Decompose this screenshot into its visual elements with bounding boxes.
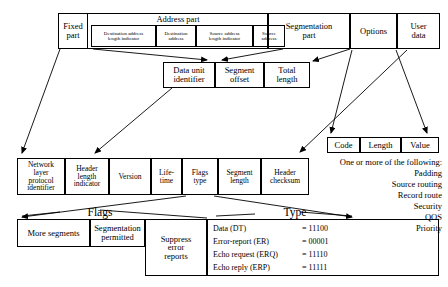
options-note-item-record-route: Record route bbox=[398, 190, 442, 200]
box-option-code: Code bbox=[327, 137, 360, 153]
box-option-value-label: Value bbox=[409, 141, 430, 150]
box-version-label: Version bbox=[118, 173, 143, 181]
type-label: Type bbox=[255, 206, 335, 218]
box-header-checksum-label: Header checksum bbox=[269, 169, 301, 184]
box-flags-type-label: Flags type bbox=[191, 169, 209, 184]
box-suppress-error-reports: Suppress error reports bbox=[145, 219, 207, 276]
type-row-echo-reply-erp-name: Echo reply (ERP) bbox=[213, 263, 270, 272]
box-segment-length: Segment length bbox=[218, 158, 261, 195]
options-note-item-source-routing: Source routing bbox=[392, 179, 442, 189]
box-lifetime-label: Life- time bbox=[158, 169, 175, 184]
type-row-data-dt-name: Data (DT) bbox=[213, 224, 246, 233]
type-row-echo-request-erq-name: Echo request (ERQ) bbox=[213, 250, 278, 259]
box-more-segments: More segments bbox=[17, 219, 90, 247]
box-flags-type: Flags type bbox=[182, 158, 218, 195]
options-note-heading: One or more of the following: bbox=[340, 157, 442, 167]
box-destination-address: Destination address bbox=[156, 25, 196, 47]
type-row-error-report-er-name: Error-report (ER) bbox=[213, 237, 269, 246]
box-destination-address-label: Destination address bbox=[163, 31, 188, 41]
flags-label: Flags bbox=[60, 206, 140, 218]
box-user-data-label: User data bbox=[409, 22, 427, 39]
box-segment-offset: Segment offset bbox=[215, 62, 264, 88]
box-segmentation-part-label: Segmentation part bbox=[285, 22, 334, 39]
options-note-item-padding: Padding bbox=[414, 168, 442, 178]
box-destination-address-length-indicator: Destination address length indicator bbox=[91, 25, 156, 47]
box-source-address-length-indicator-label: Source address length indicator bbox=[208, 31, 242, 41]
box-segmentation-permitted: Segmentation permitted bbox=[90, 219, 145, 247]
box-segmentation-permitted-label: Segmentation permitted bbox=[93, 224, 142, 241]
type-row-echo-reply-erp-value: = 11111 bbox=[302, 263, 327, 272]
box-network-layer-protocol-identifier: Network layer protocol identifier bbox=[17, 158, 65, 195]
box-suppress-error-reports-label: Suppress error reports bbox=[160, 235, 193, 261]
box-user-data: User data bbox=[397, 13, 440, 49]
box-option-length: Length bbox=[360, 137, 401, 153]
box-more-segments-label: More segments bbox=[26, 229, 80, 238]
box-segment-length-label: Segment length bbox=[225, 169, 253, 184]
box-total-length-label: Total length bbox=[275, 66, 298, 83]
box-header-length-indicator: Header length indicator bbox=[65, 158, 109, 195]
type-row-echo-request-erq-value: = 11110 bbox=[302, 250, 328, 259]
box-header-checksum: Header checksum bbox=[261, 158, 309, 195]
box-option-code-label: Code bbox=[334, 141, 354, 150]
type-row-error-report-er-value: = 00001 bbox=[302, 237, 329, 246]
options-note-item-security: Security bbox=[414, 201, 442, 211]
box-options-label: Options bbox=[359, 27, 388, 36]
box-header-length-indicator-label: Header length indicator bbox=[73, 165, 102, 188]
box-data-unit-identifier-label: Data unit identifier bbox=[172, 66, 205, 83]
box-option-length-label: Length bbox=[367, 141, 393, 150]
box-total-length: Total length bbox=[264, 62, 310, 88]
box-destination-address-length-indicator-label: Destination address length indicator bbox=[103, 31, 144, 41]
box-version: Version bbox=[109, 158, 151, 195]
box-segmentation-part: Segmentation part bbox=[268, 13, 350, 49]
box-option-value: Value bbox=[401, 137, 439, 153]
box-data-unit-identifier: Data unit identifier bbox=[163, 62, 215, 88]
box-network-layer-protocol-identifier-label: Network layer protocol identifier bbox=[26, 161, 56, 192]
address-part-label: Address part bbox=[88, 15, 268, 24]
type-row-data-dt-value: = 11100 bbox=[302, 224, 328, 233]
box-lifetime: Life- time bbox=[151, 158, 182, 195]
box-options: Options bbox=[350, 13, 397, 49]
box-source-address-length-indicator: Source address length indicator bbox=[196, 25, 253, 47]
box-fixed-part: Fixed part bbox=[58, 13, 88, 49]
box-fixed-part-label: Fixed part bbox=[59, 22, 87, 39]
diagram-canvas: Fixed part Address part Destination addr… bbox=[0, 0, 448, 287]
box-segment-offset-label: Segment offset bbox=[224, 66, 256, 83]
